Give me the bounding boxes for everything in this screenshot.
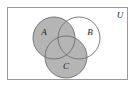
venn-diagram-canvas: A B C U xyxy=(0,0,136,89)
universe-label: U xyxy=(117,10,124,20)
venn-diagram-figure: A B C U xyxy=(0,0,136,89)
set-a-label: A xyxy=(40,27,47,37)
set-b-label: B xyxy=(87,27,93,37)
set-c-label: C xyxy=(63,61,70,71)
